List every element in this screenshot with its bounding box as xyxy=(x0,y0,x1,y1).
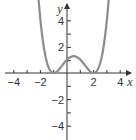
x-tick-label-4: 4 xyxy=(117,76,123,88)
y-tick-label-4: 4 xyxy=(58,15,64,27)
x-tick-label-neg2: −2 xyxy=(34,76,47,88)
x-axis-label: x xyxy=(126,75,133,89)
y-tick-label-2: 2 xyxy=(58,41,64,53)
plot-canvas: −4 −2 2 4 x 4 2 −2 −4 y xyxy=(0,0,136,140)
y-tick-label-neg2: −2 xyxy=(51,94,64,106)
function-graph: −4 −2 2 4 x 4 2 −2 −4 y xyxy=(0,0,136,140)
x-tick-label-2: 2 xyxy=(91,76,97,88)
function-curve xyxy=(36,0,110,73)
y-tick-label-neg4: −4 xyxy=(51,120,64,132)
y-axis-label: y xyxy=(56,2,63,16)
x-tick-label-neg4: −4 xyxy=(8,76,21,88)
